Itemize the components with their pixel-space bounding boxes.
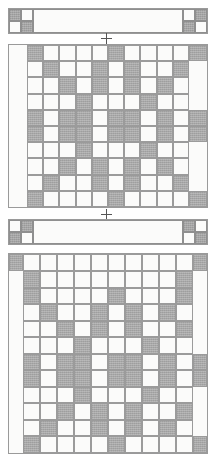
patch-light [193, 387, 207, 404]
patch-light [76, 175, 92, 191]
patch-dark [124, 110, 140, 126]
patch-light [76, 191, 92, 207]
patch-dark [108, 126, 124, 142]
patch-light [176, 337, 193, 354]
patch-light [9, 45, 27, 61]
patch-dark [92, 158, 108, 174]
patch-light [108, 61, 124, 77]
patch-light [108, 420, 125, 437]
patch-light [173, 191, 189, 207]
strip-mid-corner-right-tl [183, 220, 195, 232]
patch-light [91, 337, 108, 354]
patch-light [57, 337, 74, 354]
patch-dark [91, 321, 108, 338]
patch-light [176, 370, 193, 387]
patch-light [76, 158, 92, 174]
strip-mid-corner-right-tr [195, 220, 207, 232]
patch-light [142, 271, 159, 288]
patch-light [159, 254, 176, 271]
patch-light [9, 420, 23, 437]
patch-dark [59, 110, 75, 126]
patch-light [142, 321, 159, 338]
patch-light [23, 420, 40, 437]
patch-dark [76, 126, 92, 142]
patch-dark [157, 110, 173, 126]
patch-light [140, 61, 156, 77]
patch-light [27, 142, 43, 158]
patch-light [189, 158, 207, 174]
patch-light [74, 254, 91, 271]
patch-light [9, 77, 27, 93]
patch-dark [92, 77, 108, 93]
patch-light [173, 158, 189, 174]
patch-light [57, 387, 74, 404]
patch-light [92, 126, 108, 142]
patch-dark [142, 387, 159, 404]
patch-light [173, 94, 189, 110]
patch-light [189, 77, 207, 93]
patch-dark [74, 387, 91, 404]
patch-dark [23, 288, 40, 305]
patch-light [173, 126, 189, 142]
patch-dark [43, 175, 59, 191]
patch-light [193, 403, 207, 420]
patch-light [59, 45, 75, 61]
quilt-block-upper-grid [9, 45, 207, 207]
patch-dark [108, 110, 124, 126]
patch-light [124, 191, 140, 207]
patch-light [9, 61, 27, 77]
patch-dark [74, 370, 91, 387]
patch-light [27, 175, 43, 191]
patch-light [91, 387, 108, 404]
patch-light [125, 271, 142, 288]
patch-dark [189, 45, 207, 61]
patch-light [57, 436, 74, 453]
patch-dark [189, 126, 207, 142]
patch-light [23, 321, 40, 338]
patch-light [59, 94, 75, 110]
patch-light [91, 370, 108, 387]
patch-dark [27, 45, 43, 61]
patch-light [108, 142, 124, 158]
sashing-strip-middle [8, 219, 208, 245]
patch-dark [124, 175, 140, 191]
patch-light [9, 304, 23, 321]
patch-dark [193, 370, 207, 387]
patch-dark [159, 354, 176, 371]
patch-dark [59, 77, 75, 93]
patch-light [43, 191, 59, 207]
patch-light [9, 191, 27, 207]
patch-light [9, 175, 27, 191]
strip-mid-corner-right-br [195, 232, 207, 244]
patch-light [43, 158, 59, 174]
patch-dark [108, 191, 124, 207]
join-marker-top [101, 33, 112, 44]
patch-light [125, 254, 142, 271]
patch-light [57, 420, 74, 437]
patch-light [108, 254, 125, 271]
patch-light [40, 436, 57, 453]
patch-dark [124, 77, 140, 93]
patch-light [9, 94, 27, 110]
strip-mid-corner-left-bl [9, 232, 21, 244]
patch-light [157, 61, 173, 77]
patch-light [189, 142, 207, 158]
patch-light [108, 271, 125, 288]
patch-light [9, 158, 27, 174]
patch-dark [193, 354, 207, 371]
patch-light [125, 436, 142, 453]
patch-dark [140, 94, 156, 110]
patch-light [142, 370, 159, 387]
patch-dark [125, 370, 142, 387]
patch-dark [176, 288, 193, 305]
patch-light [189, 61, 207, 77]
patch-light [23, 337, 40, 354]
patch-light [91, 436, 108, 453]
patch-light [57, 304, 74, 321]
patch-light [91, 354, 108, 371]
patch-light [125, 337, 142, 354]
patch-light [124, 94, 140, 110]
patch-light [173, 142, 189, 158]
sashing-strip-top [8, 8, 208, 34]
patch-light [159, 387, 176, 404]
